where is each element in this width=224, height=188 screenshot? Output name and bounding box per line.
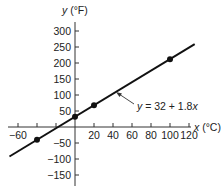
y-tick-label: 250 <box>53 41 71 53</box>
y-tick-label: 50 <box>59 105 71 117</box>
y-axis-label: y (°F) <box>61 4 88 16</box>
x-tick-label: 80 <box>145 129 157 141</box>
x-tick-label: 60 <box>126 129 138 141</box>
y-tick-label: −50 <box>53 137 71 149</box>
y-tick-label: 100 <box>53 89 71 101</box>
x-tick-label: −60 <box>9 129 27 141</box>
data-point <box>167 56 173 62</box>
x-tick-label: 20 <box>88 129 100 141</box>
y-tick-label: −100 <box>47 153 71 165</box>
y-tick-label: 200 <box>53 57 71 69</box>
x-tick-label: 40 <box>107 129 119 141</box>
y-tick-label: −150 <box>47 169 71 181</box>
annotation-arrow-shaft <box>119 94 134 104</box>
x-tick-label: 100 <box>161 129 179 141</box>
data-point <box>91 102 97 108</box>
data-point <box>34 137 40 143</box>
equation-annotation: y = 32 + 1.8x <box>116 92 198 112</box>
chart: −602040608010012030025020015010050−50−10… <box>0 0 224 188</box>
equation-label: y = 32 + 1.8x <box>136 100 198 112</box>
x-axis-label: x (°C) <box>193 121 221 133</box>
y-tick-label: 150 <box>53 73 71 85</box>
data-point <box>72 114 78 120</box>
annotation-arrowhead-icon <box>116 92 122 97</box>
y-tick-label: 300 <box>53 25 71 37</box>
